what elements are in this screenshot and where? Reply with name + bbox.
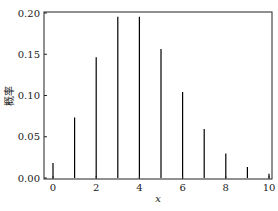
y-tick-label: 0.20 xyxy=(18,8,40,19)
axes-frame xyxy=(44,12,272,179)
chart: 0.000.050.100.150.20 0246810 x 概率 xyxy=(0,0,278,211)
x-tick-label: 8 xyxy=(223,182,229,193)
x-tick-label: 6 xyxy=(179,182,185,193)
y-tick-label: 0.00 xyxy=(18,173,40,184)
x-tick-label: 10 xyxy=(263,182,276,193)
x-axis-label: x xyxy=(155,193,161,204)
y-tick-label: 0.15 xyxy=(18,49,40,60)
x-tick-label: 2 xyxy=(93,182,99,193)
y-tick-label: 0.05 xyxy=(18,131,40,142)
x-tick-label: 4 xyxy=(136,182,142,193)
y-tick-label: 0.10 xyxy=(18,90,40,101)
plot-area xyxy=(44,12,272,179)
y-axis: 0.000.050.100.150.20 xyxy=(18,8,47,184)
y-axis-label: 概率 xyxy=(3,86,15,106)
x-tick-label: 0 xyxy=(50,182,56,193)
